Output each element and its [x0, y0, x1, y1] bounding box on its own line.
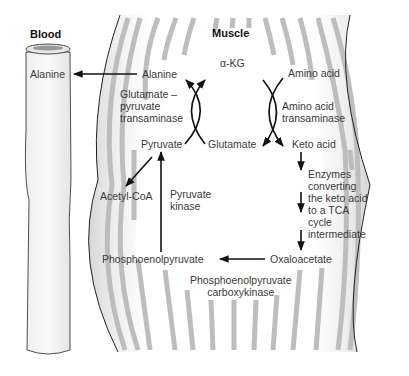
- label-alanine-blood: Alanine: [30, 68, 65, 80]
- label-keto-acid-enzymes: Enzymes converting the keto acid to a TC…: [308, 168, 368, 240]
- region-label-blood: Blood: [30, 28, 61, 40]
- label-phosphoenolpyruvate: Phosphoenolpyruvate: [102, 253, 204, 265]
- label-keto-acid: Keto acid: [292, 138, 336, 150]
- label-alpha-kg: α-KG: [220, 57, 245, 69]
- label-glutamate: Glutamate: [208, 138, 256, 150]
- blood-vessel: [25, 44, 71, 354]
- label-alanine-muscle: Alanine: [142, 68, 177, 80]
- label-oxaloacetate: Oxaloacetate: [270, 253, 332, 265]
- label-amino-acid: Amino acid: [288, 67, 340, 79]
- label-glutamate-pyruvate-transaminase: Glutamate – pyruvate transaminase: [120, 88, 183, 124]
- label-acetyl-coa: Acetyl-CoA: [100, 190, 153, 202]
- label-pepck: Phosphoenolpyruvate carboxykinase: [190, 274, 292, 298]
- label-amino-acid-transaminase: Amino acid transaminase: [282, 100, 345, 124]
- label-pyruvate-kinase: Pyruvate kinase: [170, 188, 211, 212]
- region-label-muscle: Muscle: [212, 27, 249, 39]
- label-pyruvate: Pyruvate: [141, 138, 182, 150]
